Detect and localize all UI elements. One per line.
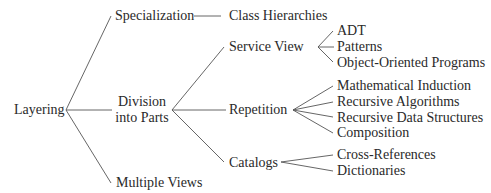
edge-service-adt — [318, 31, 333, 47]
node-specialization: Specialization — [115, 8, 194, 24]
node-layering: Layering — [14, 102, 65, 118]
node-cross-references: Cross-References — [337, 147, 436, 163]
edge-catalogs-cross-refs — [281, 155, 333, 162]
node-patterns: Patterns — [337, 39, 382, 55]
node-catalogs: Catalogs — [229, 155, 278, 171]
edge-service-oop — [318, 47, 333, 62]
node-composition: Composition — [337, 125, 409, 141]
node-recursive-data-structures: Recursive Data Structures — [337, 110, 483, 126]
edge-layering-specialization — [66, 16, 111, 110]
edge-layering-multiple-views — [66, 110, 111, 183]
node-repetition: Repetition — [229, 102, 287, 118]
node-multiple-views: Multiple Views — [116, 175, 202, 191]
node-mathematical-induction: Mathematical Induction — [337, 78, 471, 94]
node-object-oriented-programs: Object-Oriented Programs — [337, 55, 485, 71]
node-division-into-parts: Division into Parts — [114, 94, 170, 126]
node-class-hierarchies: Class Hierarchies — [229, 8, 327, 24]
edge-catalogs-dictionaries — [281, 162, 333, 171]
layering-tree-diagram: Layering Specialization Class Hierarchie… — [0, 0, 491, 193]
edge-division-service-view — [172, 47, 224, 110]
node-dictionaries: Dictionaries — [337, 163, 405, 179]
node-adt: ADT — [337, 23, 366, 39]
node-recursive-algorithms: Recursive Algorithms — [337, 94, 460, 110]
node-division-line2: into Parts — [114, 110, 170, 126]
edge-division-catalogs — [172, 110, 224, 162]
node-division-line1: Division — [114, 94, 170, 110]
node-service-view: Service View — [229, 39, 304, 55]
